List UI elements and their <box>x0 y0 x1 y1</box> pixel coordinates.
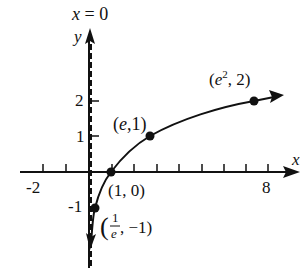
label-point-1-0: (1, 0) <box>108 181 145 200</box>
y-axis-label: y <box>72 27 82 46</box>
point-e-1 <box>146 132 155 141</box>
point-1-0 <box>107 168 116 177</box>
x-ticks <box>43 164 268 172</box>
curve-arrow-right-icon <box>269 90 284 103</box>
point-1-over-e <box>91 204 100 213</box>
asymptote-label: x = 0 <box>71 4 108 24</box>
svg-text:e: e <box>111 226 117 241</box>
label-point-e-1: (e,1) <box>113 114 147 135</box>
ln-graph: x = 0 y x -2 8 2 1 -1 (1, 0) (e,1) (e2, … <box>0 0 308 273</box>
label-point-e2-2: (e2, 2) <box>209 68 250 89</box>
y-tick-label-2: 2 <box>75 91 84 110</box>
y-tick-label-neg1: -1 <box>68 197 82 216</box>
y-tick-label-1: 1 <box>76 127 85 146</box>
svg-text:1: 1 <box>112 210 119 225</box>
x-tick-label-neg2: -2 <box>26 178 40 197</box>
label-point-1-over-e: ( 1 e , −1) <box>100 210 152 241</box>
point-e2-2 <box>250 97 259 106</box>
x-axis-label: x <box>291 150 300 169</box>
svg-text:, −1): , −1) <box>120 218 152 237</box>
svg-text:(: ( <box>100 212 109 241</box>
x-tick-label-8: 8 <box>262 178 271 197</box>
